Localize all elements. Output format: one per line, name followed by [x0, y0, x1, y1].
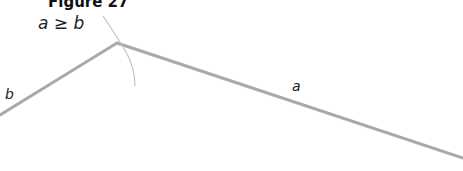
side-a-line	[117, 43, 463, 158]
side-b-label: b	[5, 86, 14, 102]
condition-label: a ≥ b	[38, 13, 84, 33]
angle-arc	[103, 16, 135, 86]
figure-title: Figure 27	[48, 0, 128, 11]
side-b-line	[0, 43, 117, 115]
side-a-label: a	[292, 78, 301, 94]
